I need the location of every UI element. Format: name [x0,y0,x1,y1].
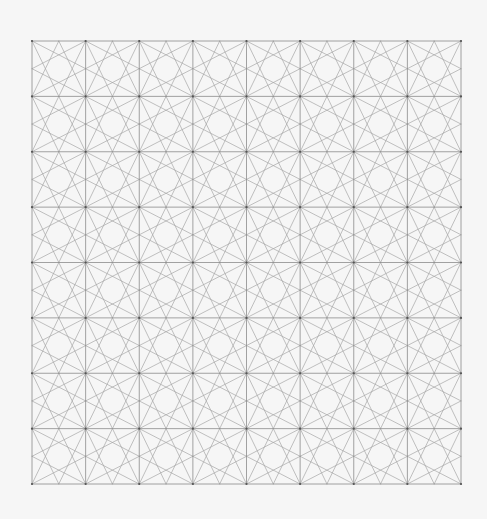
grid-vertex [245,372,247,374]
grid-vertex [460,40,462,42]
grid-vertex [353,151,355,153]
grid-vertex [353,317,355,319]
grid-vertex [192,261,194,263]
grid-vertex [31,428,33,430]
grid-vertex [245,40,247,42]
grid-vertex [406,151,408,153]
grid-vertex [299,372,301,374]
grid-vertex [85,261,87,263]
grid-vertex [460,261,462,263]
grid-vertex [353,372,355,374]
grid-vertex [138,317,140,319]
grid-vertex [353,261,355,263]
grid-vertex [245,151,247,153]
grid-vertex [31,40,33,42]
grid-vertex [406,317,408,319]
grid-vertex [138,151,140,153]
grid-vertex [192,95,194,97]
grid-vertex [460,206,462,208]
grid-vertex [353,428,355,430]
grid-vertex [460,483,462,485]
grid-vertex [192,206,194,208]
grid-vertex [138,428,140,430]
grid-vertex [299,261,301,263]
grid-vertex [85,372,87,374]
grid-vertex [406,261,408,263]
grid-vertex [192,483,194,485]
grid-vertex [85,317,87,319]
grid-vertex [299,40,301,42]
grid-vertex [353,483,355,485]
grid-vertex [299,151,301,153]
grid-vertex [406,372,408,374]
grid-vertex [192,428,194,430]
grid-vertex [299,428,301,430]
grid-vertex [85,483,87,485]
grid-vertex [31,151,33,153]
grid-vertex [460,95,462,97]
grid-vertex [406,206,408,208]
grid-vertex [85,206,87,208]
grid-vertex [353,206,355,208]
grid-vertex [406,428,408,430]
grid-vertex [138,372,140,374]
grid-vertex [192,40,194,42]
grid-vertex [31,483,33,485]
grid-vertex [460,317,462,319]
grid-vertex [353,40,355,42]
grid-vertex [299,317,301,319]
grid-vertex [245,206,247,208]
grid-vertex [245,428,247,430]
grid-vertex [406,40,408,42]
grid-vertex [406,483,408,485]
grid-vertex [299,483,301,485]
grid-vertex [192,317,194,319]
grid-vertex [138,483,140,485]
grid-vertex [138,95,140,97]
grid-vertex [138,40,140,42]
grid-vertex [192,151,194,153]
grid-vertex [245,317,247,319]
geometric-lattice-drawing [0,0,487,519]
grid-vertex [31,95,33,97]
grid-vertex [460,372,462,374]
grid-vertex [299,206,301,208]
grid-vertex [406,95,408,97]
grid-vertex [138,206,140,208]
grid-vertex [299,95,301,97]
pattern-canvas [0,0,487,519]
grid-vertex [245,95,247,97]
grid-vertex [85,151,87,153]
grid-vertex [192,372,194,374]
grid-vertex [31,317,33,319]
grid-vertex [245,261,247,263]
grid-vertex [31,261,33,263]
grid-vertex [85,95,87,97]
grid-vertex [460,428,462,430]
grid-vertex [245,483,247,485]
grid-vertex [460,151,462,153]
grid-vertex [85,428,87,430]
grid-vertex [85,40,87,42]
grid-vertex [138,261,140,263]
grid-vertex [31,206,33,208]
grid-vertex [31,372,33,374]
grid-vertex [353,95,355,97]
